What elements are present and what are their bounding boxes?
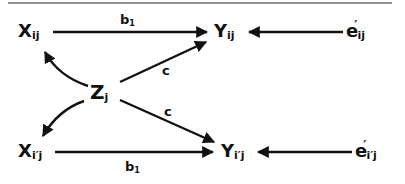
node-e-ij-sub: ij bbox=[357, 29, 365, 42]
diagram-edges bbox=[0, 0, 405, 184]
node-e-ij: e′ij bbox=[346, 22, 365, 40]
path-diagram: Xij Yij e′ij Zj Xi′j Yi′j e′i′j b1 c c b… bbox=[0, 0, 405, 184]
edge-label-b1-top-base: b bbox=[120, 12, 129, 27]
node-y-ipj: Yi′j bbox=[221, 142, 245, 160]
node-e-ipj-sub: i′j bbox=[366, 149, 376, 162]
node-y-ij-sub: ij bbox=[227, 29, 235, 42]
node-e-ipj: e′i′j bbox=[355, 142, 377, 160]
edge-zj-xipj bbox=[43, 101, 84, 136]
node-z-j-base: Z bbox=[90, 80, 105, 104]
node-y-ipj-base: Y bbox=[221, 140, 234, 161]
node-y-ij-base: Y bbox=[214, 20, 227, 41]
node-x-ipj-base: X bbox=[18, 140, 32, 161]
node-x-ij-base: X bbox=[18, 20, 32, 41]
edge-label-b1-top-sub: 1 bbox=[129, 19, 135, 28]
node-z-j: Zj bbox=[90, 82, 108, 102]
edge-label-b1-bot-sub: 1 bbox=[134, 166, 140, 175]
node-x-ij-sub: ij bbox=[32, 29, 40, 42]
edge-label-c-top: c bbox=[162, 64, 170, 77]
edge-label-b1-bot-base: b bbox=[125, 159, 134, 174]
node-x-ipj: Xi′j bbox=[18, 142, 42, 160]
edge-label-c-bot: c bbox=[164, 105, 172, 118]
edge-label-b1-top: b1 bbox=[120, 13, 135, 26]
node-x-ij: Xij bbox=[18, 22, 39, 40]
node-x-ipj-sub: i′j bbox=[32, 149, 42, 162]
node-y-ipj-sub: i′j bbox=[234, 149, 244, 162]
edge-label-b1-bot: b1 bbox=[125, 160, 140, 173]
node-y-ij: Yij bbox=[214, 22, 235, 40]
node-z-j-sub: j bbox=[105, 91, 109, 104]
edge-zj-xij bbox=[45, 52, 88, 86]
